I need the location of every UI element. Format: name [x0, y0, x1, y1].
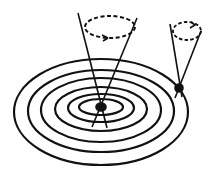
contour-diagram	[0, 0, 213, 177]
rim-cone	[170, 22, 201, 98]
concentric-contours	[14, 59, 188, 165]
precession-dashed-circle	[85, 16, 135, 38]
central-point	[96, 103, 106, 111]
rim-point	[175, 84, 183, 92]
rim-precession-dashed-circle	[173, 22, 201, 40]
